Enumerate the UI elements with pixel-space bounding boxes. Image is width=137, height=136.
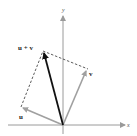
dashed-side-u-to-sum: [21, 51, 43, 107]
vector-u: [23, 108, 63, 125]
vector-u-plus-v: [44, 53, 63, 125]
dashed-side-sum-to-v: [43, 51, 88, 69]
label-u: u: [19, 113, 23, 121]
label-u-plus-v: u + v: [18, 44, 33, 52]
y-axis-label: y: [61, 7, 65, 13]
label-v: v: [89, 70, 93, 78]
vector-v: [63, 71, 86, 125]
x-axis-label: x: [126, 122, 130, 128]
vector-diagram: x y u + v v u: [0, 0, 137, 136]
